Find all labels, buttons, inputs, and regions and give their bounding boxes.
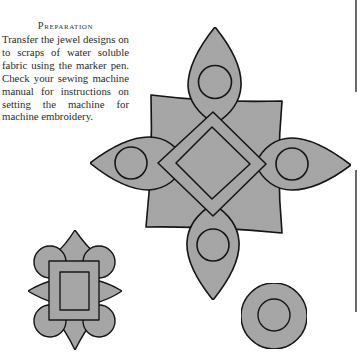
outer-rectangle [49,261,99,320]
round-jewel-outer-circle [241,283,307,349]
round-jewel [241,283,307,349]
page-edge-line-bottom [355,170,357,312]
jewel-design-illustrations [0,0,357,364]
right-petal [255,138,351,190]
small-rectangle-jewel [28,230,122,350]
large-cross-jewel [90,27,351,300]
page-edge-line-top [355,0,357,92]
